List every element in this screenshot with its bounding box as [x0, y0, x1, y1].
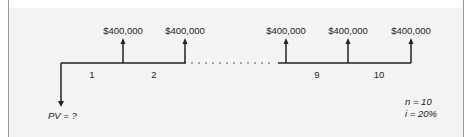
cash-flow-arrow-head — [346, 38, 351, 44]
cash-flow-label-2: $400,000 — [165, 25, 205, 36]
gap-dot — [233, 62, 235, 64]
cash-flow-label-1: $400,000 — [103, 25, 143, 36]
gap-dot — [240, 62, 242, 64]
cash-flow-label-9: $400,000 — [266, 25, 306, 36]
gap-dot — [254, 62, 256, 64]
period-label-2: 2 — [151, 69, 156, 80]
period-label-1: 1 — [89, 69, 94, 80]
gap-dot — [191, 62, 193, 64]
cash-flow-arrow-head — [121, 38, 126, 44]
gap-dot — [198, 62, 200, 64]
gap-dot — [212, 62, 214, 64]
period-label-9: 9 — [314, 69, 319, 80]
cash-flow-arrow-head — [284, 38, 289, 44]
cash-flow-diagram: $400,000 $400,000 $400,000 $400,000 $400… — [0, 0, 473, 137]
period-label-10: 10 — [374, 69, 385, 80]
gap-dot — [226, 62, 228, 64]
present-value-label: PV = ? — [48, 110, 77, 121]
gap-dot — [247, 62, 249, 64]
gap-dot — [268, 62, 270, 64]
cash-flow-label-10: $400,000 — [328, 25, 368, 36]
cash-flow-label-11: $400,000 — [391, 25, 431, 36]
pv-arrow-head — [58, 101, 64, 107]
gap-dot — [261, 62, 263, 64]
gap-dot — [205, 62, 207, 64]
cash-flow-arrow-head — [183, 38, 188, 44]
parameter-i: i = 20% — [405, 108, 438, 119]
parameter-n: n = 10 — [405, 96, 432, 107]
cash-flow-arrow-head — [409, 38, 414, 44]
timeline-gap-dots — [191, 62, 270, 64]
gap-dot — [219, 62, 221, 64]
